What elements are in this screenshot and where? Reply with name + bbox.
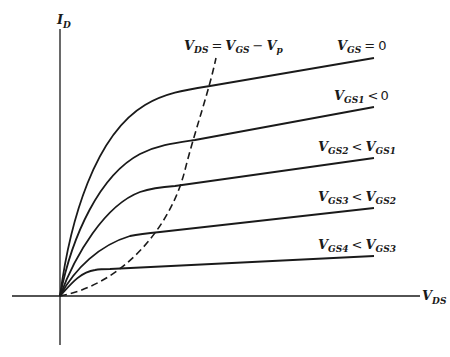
label-vgs0: VGS=0 (337, 38, 386, 55)
label-vgs2: VGS2<VGS1 (318, 139, 396, 156)
jfet-characteristics-diagram: ID VDS VDS=VGS−Vp VGS=0 VGS1<0 VGS2<VGS1… (0, 0, 450, 357)
pinchoff-locus-dashed (60, 58, 216, 296)
label-vgs1: VGS1<0 (334, 88, 389, 105)
pinchoff-label: VDS=VGS−Vp (184, 38, 284, 55)
curve-vgs3 (60, 208, 374, 296)
curve-vgs0 (60, 58, 374, 296)
x-axis-label: VDS (422, 288, 447, 306)
label-vgs4: VGS4<VGS3 (318, 237, 396, 254)
y-axis-label: ID (56, 12, 71, 30)
label-vgs3: VGS3<VGS2 (318, 189, 396, 206)
curve-vgs4 (60, 256, 374, 296)
curve-vgs2 (60, 158, 374, 296)
